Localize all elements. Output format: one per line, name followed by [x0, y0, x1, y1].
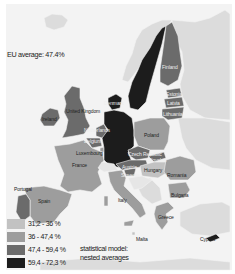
label-italy: Italy [118, 197, 127, 203]
model-line-2: nested averages [80, 253, 129, 262]
label-austria: Austria [122, 164, 137, 170]
label-uk: United Kingdom [66, 108, 100, 114]
label-belgium: Belgium [84, 138, 101, 144]
model-line-1: statistical model: [80, 244, 129, 253]
legend-item: 36 - 47,4 % [7, 230, 66, 243]
sicily[interactable] [124, 220, 134, 226]
legend-swatch-class4 [7, 258, 25, 268]
legend-item: 31,2 - 36 % [7, 217, 66, 230]
legend-item: 47,4 - 59,4 % [7, 243, 66, 256]
sardinia[interactable] [104, 196, 108, 206]
label-poland: Poland [144, 132, 159, 138]
label-estonia: Estonia [166, 91, 182, 97]
legend-label: 47,4 - 59,4 % [28, 246, 66, 253]
north-africa [40, 258, 230, 270]
legend-label: 31,2 - 36 % [28, 220, 61, 227]
label-spain: Spain [38, 198, 50, 204]
legend-swatch-class2 [7, 232, 25, 242]
legend-swatch-class1 [7, 219, 25, 229]
legend-label: 36 - 47,4 % [28, 233, 61, 240]
legend-label: 59,4 - 72,3 % [28, 259, 66, 266]
label-portugal: Portugal [14, 186, 32, 192]
label-cyprus: Cyprus [200, 236, 215, 242]
statistical-model-note: statistical model: nested averages [80, 244, 129, 262]
germany[interactable] [102, 110, 134, 168]
label-malta: Malta [136, 236, 148, 242]
label-denmark: Denmark [104, 100, 124, 106]
label-ireland: Ireland [42, 116, 57, 122]
label-romania: Romania [167, 172, 186, 178]
label-france: France [72, 162, 87, 168]
label-hungary: Hungary [144, 167, 162, 173]
legend-item: 59,4 - 72,3 % [7, 256, 66, 269]
legend-swatch-class3 [7, 245, 25, 255]
label-netherlands: Netherlands [84, 127, 110, 133]
label-slovenia: Slovenia [121, 172, 139, 178]
legend: 31,2 - 36 % 36 - 47,4 % 47,4 - 59,4 % 59… [7, 217, 66, 269]
label-slovakia: Slovakia [148, 157, 166, 163]
label-bulgaria: Bulgaria [171, 192, 189, 198]
label-finland: Finland [162, 64, 178, 70]
iceland [44, 14, 68, 30]
label-latvia: Latvia [167, 100, 180, 106]
label-lithuania: Lithuania [163, 111, 182, 117]
label-greece: Greece [158, 214, 174, 220]
malta[interactable] [132, 232, 135, 235]
eu-average-label: EU average: 47.4% [7, 50, 64, 59]
turkey [180, 202, 230, 236]
label-luxembourg: Luxembourg [76, 150, 103, 156]
